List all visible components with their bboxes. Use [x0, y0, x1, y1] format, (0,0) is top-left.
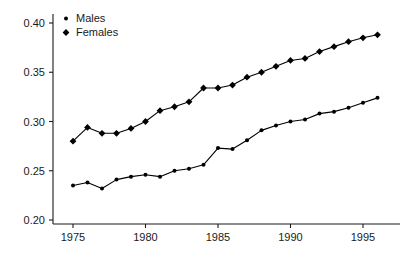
data-point-marker	[345, 38, 352, 45]
data-point-marker	[318, 112, 322, 116]
data-point-marker	[303, 118, 307, 122]
data-point-marker	[129, 175, 133, 179]
legend-label: Males	[76, 12, 106, 24]
data-point-marker	[289, 120, 293, 124]
data-point-marker	[86, 181, 90, 185]
data-point-marker	[171, 103, 178, 110]
y-tick-label: 0.30	[24, 116, 45, 128]
data-point-marker	[361, 101, 365, 105]
x-axis-tick-labels: 19751980198519901995	[61, 231, 375, 243]
data-point-marker	[274, 123, 278, 127]
data-point-marker	[376, 96, 380, 100]
data-point-marker	[158, 175, 162, 179]
data-point-marker	[202, 163, 206, 167]
data-point-marker	[229, 82, 236, 89]
series-males	[71, 96, 380, 191]
y-axis-tick-marks	[49, 23, 53, 220]
data-point-marker	[215, 85, 222, 92]
data-point-marker	[115, 178, 119, 182]
chart-legend: MalesFemales	[63, 12, 119, 38]
data-point-marker	[244, 74, 251, 81]
data-point-marker	[273, 63, 280, 70]
data-point-marker	[260, 128, 264, 132]
series-line	[73, 98, 378, 189]
diamond-marker-icon	[63, 29, 70, 36]
series-line	[73, 35, 378, 141]
chart-container: 0.200.250.300.350.40 1975198019851990199…	[0, 0, 413, 262]
y-tick-label: 0.35	[24, 66, 45, 78]
data-point-marker	[231, 147, 235, 151]
data-point-marker	[100, 186, 104, 190]
data-point-marker	[99, 130, 106, 137]
data-series-layer	[70, 31, 381, 190]
legend-item-females: Females	[63, 26, 119, 38]
data-point-marker	[245, 138, 249, 142]
y-tick-label: 0.40	[24, 17, 45, 29]
y-tick-label: 0.25	[24, 165, 45, 177]
data-point-marker	[173, 169, 177, 173]
x-tick-label: 1995	[351, 231, 375, 243]
data-point-marker	[332, 110, 336, 114]
data-point-marker	[316, 48, 323, 55]
series-females	[70, 31, 381, 144]
line-chart: 0.200.250.300.350.40 1975198019851990199…	[0, 0, 413, 262]
x-tick-label: 1975	[61, 231, 85, 243]
data-point-marker	[360, 34, 367, 41]
data-point-marker	[331, 43, 338, 50]
data-point-marker	[302, 55, 309, 62]
x-tick-label: 1990	[278, 231, 302, 243]
legend-label: Females	[76, 26, 119, 38]
data-point-marker	[287, 57, 294, 64]
data-point-marker	[113, 130, 120, 137]
data-point-marker	[187, 167, 191, 171]
y-axis-tick-labels: 0.200.250.300.350.40	[24, 17, 45, 226]
data-point-marker	[258, 69, 265, 76]
legend-item-males: Males	[64, 12, 106, 24]
data-point-marker	[71, 184, 75, 188]
data-point-marker	[374, 31, 381, 38]
data-point-marker	[347, 106, 351, 110]
data-point-marker	[144, 173, 148, 177]
data-point-marker	[128, 125, 135, 132]
dot-marker-icon	[64, 17, 68, 21]
x-axis-tick-marks	[73, 224, 363, 228]
x-tick-label: 1980	[133, 231, 157, 243]
y-tick-label: 0.20	[24, 214, 45, 226]
x-tick-label: 1985	[206, 231, 230, 243]
data-point-marker	[216, 146, 220, 150]
